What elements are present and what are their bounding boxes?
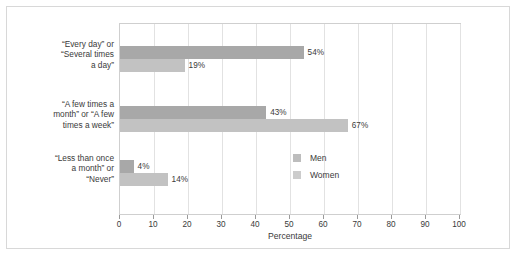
category-label-line: month” or “A few xyxy=(12,109,114,119)
x-tick xyxy=(323,215,324,219)
x-tick-label: 40 xyxy=(250,220,259,229)
x-tick-label: 100 xyxy=(452,220,466,229)
legend-swatch-men-icon xyxy=(293,154,301,162)
x-tick xyxy=(459,215,460,219)
x-tick-label: 20 xyxy=(182,220,191,229)
bar-value-label: 43% xyxy=(266,106,286,119)
legend-label-women: Women xyxy=(310,170,339,180)
category-label-line: “Every day” or xyxy=(12,39,114,49)
bar-men xyxy=(120,160,134,173)
category-label: “A few times amonth” or “A fewtimes a we… xyxy=(12,99,120,130)
category-label-line: “Never” xyxy=(12,174,114,184)
x-axis-label: Percentage xyxy=(119,231,461,241)
x-tick xyxy=(289,215,290,219)
x-tick-label: 80 xyxy=(386,220,395,229)
legend-label-men: Men xyxy=(310,153,327,163)
x-tick xyxy=(221,215,222,219)
x-tick xyxy=(187,215,188,219)
x-tick xyxy=(153,215,154,219)
x-tick xyxy=(255,215,256,219)
category-label: “Less than oncea month” or“Never” xyxy=(12,153,120,184)
bar-group: “A few times amonth” or “A fewtimes a we… xyxy=(120,106,460,132)
x-tick xyxy=(391,215,392,219)
x-tick xyxy=(119,215,120,219)
x-tick-label: 90 xyxy=(420,220,429,229)
bar-value-label: 4% xyxy=(134,160,150,173)
bar-value-label: 19% xyxy=(185,59,205,72)
category-label-line: “Several times xyxy=(12,49,114,59)
x-tick-label: 30 xyxy=(216,220,225,229)
bar-women xyxy=(120,119,348,132)
bar-women xyxy=(120,59,185,72)
bar-group: “Every day” or“Several timesa day”54%19% xyxy=(120,46,460,72)
legend-item-men[interactable]: Men xyxy=(293,149,339,166)
category-label-line: “Less than once xyxy=(12,153,114,163)
x-tick-label: 70 xyxy=(352,220,361,229)
bar-value-label: 14% xyxy=(168,173,188,186)
chart-legend: Men Women xyxy=(293,149,339,183)
bar-group: “Less than oncea month” or“Never”4%14% xyxy=(120,160,460,186)
x-tick xyxy=(357,215,358,219)
x-tick-label: 60 xyxy=(318,220,327,229)
category-label: “Every day” or“Several timesa day” xyxy=(12,39,120,70)
category-label-line: a month” or xyxy=(12,163,114,173)
x-tick-label: 0 xyxy=(117,220,122,229)
chart-figure: “Every day” or“Several timesa day”54%19%… xyxy=(6,6,510,249)
category-label-line: a day” xyxy=(12,60,114,70)
plot-area: “Every day” or“Several timesa day”54%19%… xyxy=(119,23,461,215)
bar-women xyxy=(120,173,168,186)
bar-men xyxy=(120,46,304,59)
bar-value-label: 67% xyxy=(348,119,368,132)
legend-item-women[interactable]: Women xyxy=(293,166,339,183)
x-tick xyxy=(425,215,426,219)
x-tick-label: 10 xyxy=(148,220,157,229)
gridline xyxy=(460,24,461,214)
x-tick-label: 50 xyxy=(284,220,293,229)
bar-men xyxy=(120,106,266,119)
category-label-line: times a week” xyxy=(12,120,114,130)
bar-value-label: 54% xyxy=(304,46,324,59)
legend-swatch-women-icon xyxy=(293,171,301,179)
category-label-line: “A few times a xyxy=(12,99,114,109)
